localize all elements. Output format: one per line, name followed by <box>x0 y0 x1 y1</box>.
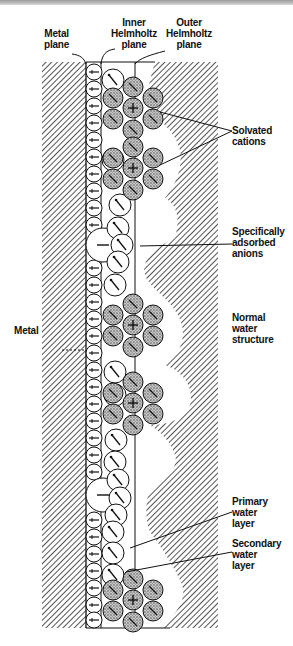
label-normal-water-structure: Normalwaterstructure <box>232 312 274 345</box>
label-metal: Metal <box>14 325 39 336</box>
label-inner-helmholtz-plane: InnerHelmholtzplane <box>111 17 157 50</box>
label-outer-helmholtz-plane: OuterHelmholtzplane <box>166 17 212 50</box>
metal-region <box>42 62 86 628</box>
label-solvated-cations: Solvatedcations <box>232 125 272 147</box>
label-metal-plane: Metalplane <box>44 28 69 50</box>
label-specifically-adsorbed-anions: Specificallyadsorbedanions <box>232 226 285 259</box>
label-primary-water-layer: Primarywaterlayer <box>232 496 268 529</box>
label-secondary-water-layer: Secondarywaterlayer <box>232 538 281 571</box>
primary-water-layer <box>86 64 102 628</box>
